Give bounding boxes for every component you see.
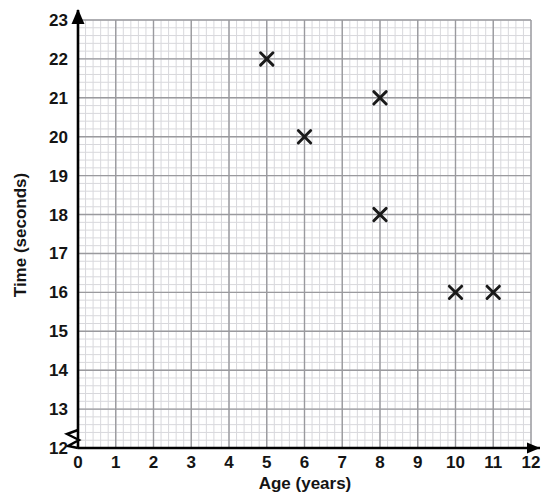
- x-tick-label: 10: [446, 453, 465, 472]
- x-tick-label: 7: [338, 453, 347, 472]
- y-tick-label: 14: [49, 361, 68, 380]
- x-tick-label: 2: [149, 453, 158, 472]
- x-tick-label: 1: [111, 453, 120, 472]
- chart-canvas: 0123456789101112 12131415161718192021222…: [0, 0, 554, 501]
- x-tick-label: 5: [262, 453, 271, 472]
- x-tick-label: 0: [73, 453, 82, 472]
- y-tick-label: 13: [49, 400, 68, 419]
- y-tick-label: 22: [49, 50, 68, 69]
- y-tick-label: 19: [49, 167, 68, 186]
- x-tick-label: 11: [484, 453, 502, 472]
- y-tick-label: 12: [49, 439, 68, 458]
- y-tick-label: 15: [49, 322, 68, 341]
- y-tick-label: 23: [49, 11, 68, 30]
- y-tick-label: 18: [49, 206, 68, 225]
- x-tick-label: 3: [187, 453, 196, 472]
- y-tick-label: 20: [49, 128, 68, 147]
- x-tick-label: 8: [375, 453, 384, 472]
- y-tick-label: 16: [49, 283, 68, 302]
- x-axis-title: Age (years): [259, 474, 352, 493]
- y-tick-label: 21: [49, 89, 68, 108]
- y-axis-title: Time (seconds): [11, 173, 30, 297]
- y-tick-label: 17: [49, 244, 68, 263]
- scatter-chart: 0123456789101112 12131415161718192021222…: [0, 0, 554, 501]
- x-tick-label: 6: [300, 453, 309, 472]
- x-tick-label: 4: [224, 453, 234, 472]
- x-tick-label: 9: [413, 453, 422, 472]
- x-tick-label: 12: [522, 453, 541, 472]
